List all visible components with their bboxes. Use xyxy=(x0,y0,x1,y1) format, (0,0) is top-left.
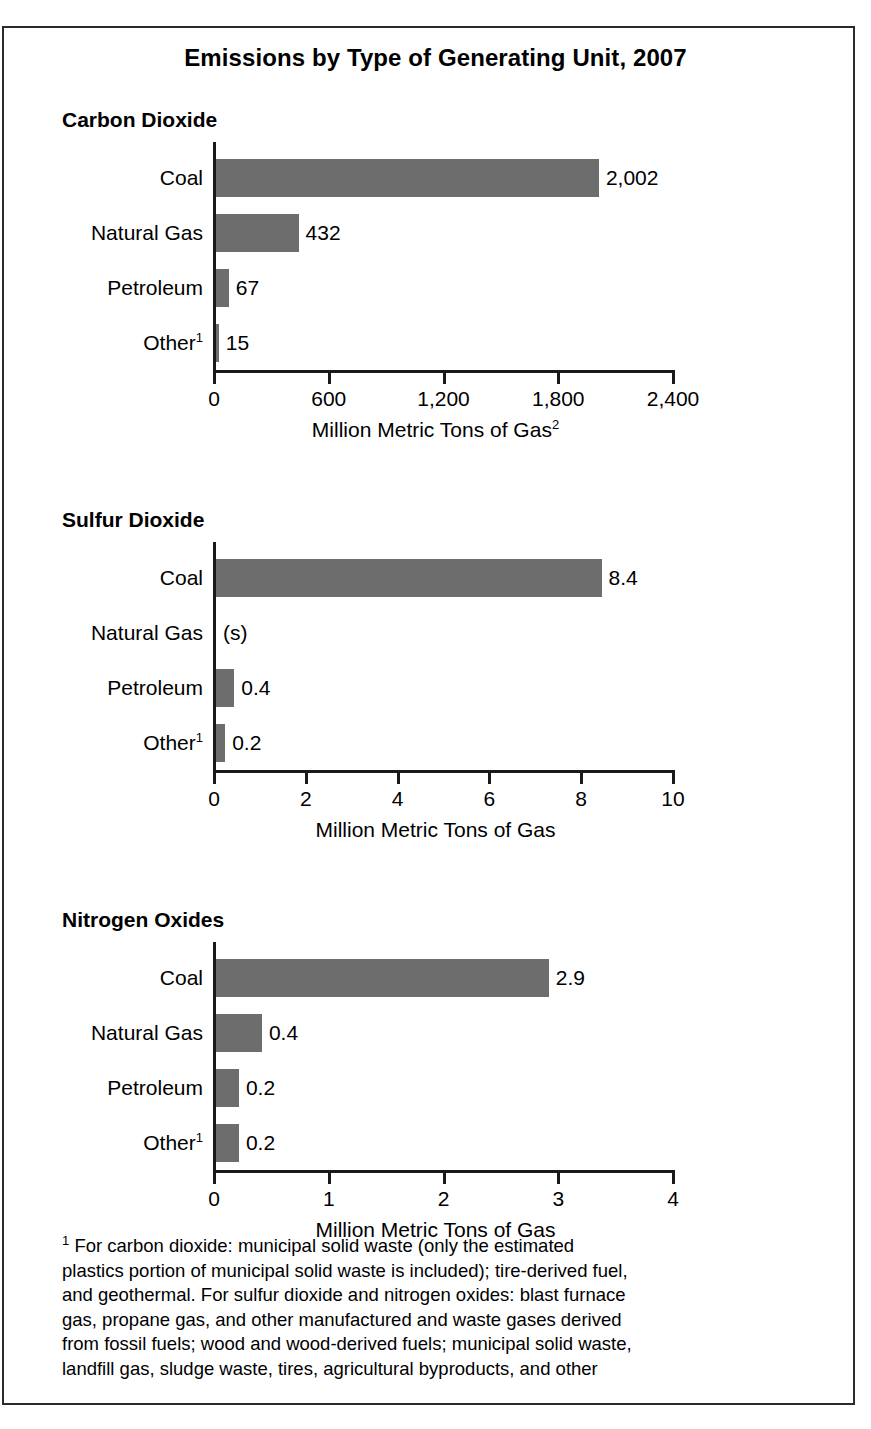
bar-value-2-1: 0.4 xyxy=(269,1021,298,1045)
category-label-0-1: Natural Gas xyxy=(91,221,203,245)
category-label-1-2: Petroleum xyxy=(107,676,203,700)
category-label-2-3: Other1 xyxy=(143,1131,203,1155)
category-label-footnote-0-3: 1 xyxy=(196,330,203,345)
x-tick-1-4 xyxy=(580,773,583,784)
x-tick-label-0-2: 1,200 xyxy=(417,387,470,411)
bar-2-1 xyxy=(216,1014,262,1052)
panel-title-0: Carbon Dioxide xyxy=(62,108,217,132)
x-tick-2-1 xyxy=(328,1173,331,1184)
x-tick-2-2 xyxy=(443,1173,446,1184)
bar-value-0-0: 2,002 xyxy=(606,166,659,190)
bar-2-3 xyxy=(216,1124,239,1162)
x-axis-title-footnote-0: 2 xyxy=(552,417,559,432)
x-tick-0-2 xyxy=(443,373,446,384)
footnote-marker: 1 xyxy=(62,1233,69,1248)
x-tick-label-2-1: 1 xyxy=(323,1187,335,1211)
category-label-2-2: Petroleum xyxy=(107,1076,203,1100)
bar-1-0 xyxy=(216,559,602,597)
x-tick-1-2 xyxy=(397,773,400,784)
bar-value-0-2: 67 xyxy=(236,276,259,300)
footnote-line-2: and geothermal. For sulfur dioxide and n… xyxy=(62,1283,762,1308)
x-tick-label-0-3: 1,800 xyxy=(532,387,585,411)
bar-value-2-2: 0.2 xyxy=(246,1076,275,1100)
bar-2-2 xyxy=(216,1069,239,1107)
bar-value-1-1: (s) xyxy=(223,621,248,645)
footnote-text-0: For carbon dioxide: municipal solid wast… xyxy=(74,1235,574,1256)
bar-value-0-1: 432 xyxy=(306,221,341,245)
x-tick-label-1-5: 10 xyxy=(661,787,684,811)
category-label-0-2: Petroleum xyxy=(107,276,203,300)
category-label-footnote-2-3: 1 xyxy=(196,1130,203,1145)
category-label-0-0: Coal xyxy=(160,166,203,190)
bar-2-0 xyxy=(216,959,549,997)
category-label-1-0: Coal xyxy=(160,566,203,590)
bar-0-1 xyxy=(216,214,299,252)
x-tick-label-2-3: 3 xyxy=(552,1187,564,1211)
category-label-2-1: Natural Gas xyxy=(91,1021,203,1045)
x-tick-label-1-1: 2 xyxy=(300,787,312,811)
footnote-line-0: 1 For carbon dioxide: municipal solid wa… xyxy=(62,1234,762,1259)
bar-1-3 xyxy=(216,724,225,762)
x-tick-label-1-3: 6 xyxy=(484,787,496,811)
x-tick-1-5 xyxy=(672,773,675,784)
bar-value-1-3: 0.2 xyxy=(232,731,261,755)
bar-0-3 xyxy=(216,324,219,362)
footnote-line-4: from fossil fuels; wood and wood-derived… xyxy=(62,1332,762,1357)
category-label-0-3: Other1 xyxy=(143,331,203,355)
x-tick-1-1 xyxy=(305,773,308,784)
x-tick-label-2-2: 2 xyxy=(438,1187,450,1211)
category-label-2-0: Coal xyxy=(160,966,203,990)
figure-footnote: 1 For carbon dioxide: municipal solid wa… xyxy=(62,1234,762,1381)
footnote-line-1: plastics portion of municipal solid wast… xyxy=(62,1259,762,1284)
category-label-1-3: Other1 xyxy=(143,731,203,755)
bar-value-2-0: 2.9 xyxy=(556,966,585,990)
x-axis-title-1: Million Metric Tons of Gas xyxy=(0,818,871,842)
x-tick-1-0 xyxy=(213,773,216,784)
panel-title-2: Nitrogen Oxides xyxy=(62,908,224,932)
bar-0-0 xyxy=(216,159,599,197)
figure-title: Emissions by Type of Generating Unit, 20… xyxy=(0,44,871,72)
bar-1-2 xyxy=(216,669,234,707)
x-tick-2-4 xyxy=(672,1173,675,1184)
x-tick-0-1 xyxy=(328,373,331,384)
bar-value-1-0: 8.4 xyxy=(609,566,638,590)
category-label-1-1: Natural Gas xyxy=(91,621,203,645)
x-tick-2-3 xyxy=(557,1173,560,1184)
footnote-line-3: gas, propane gas, and other manufactured… xyxy=(62,1308,762,1333)
x-tick-0-0 xyxy=(213,373,216,384)
bar-value-2-3: 0.2 xyxy=(246,1131,275,1155)
x-tick-0-4 xyxy=(672,373,675,384)
x-tick-label-0-0: 0 xyxy=(208,387,220,411)
footnote-line-5: landfill gas, sludge waste, tires, agric… xyxy=(62,1357,762,1382)
bar-0-2 xyxy=(216,269,229,307)
x-tick-label-1-2: 4 xyxy=(392,787,404,811)
x-tick-1-3 xyxy=(488,773,491,784)
panel-title-1: Sulfur Dioxide xyxy=(62,508,204,532)
x-tick-0-3 xyxy=(557,373,560,384)
bar-value-1-2: 0.4 xyxy=(241,676,270,700)
figure-page: Emissions by Type of Generating Unit, 20… xyxy=(0,0,871,1429)
x-tick-label-2-0: 0 xyxy=(208,1187,220,1211)
x-tick-label-1-0: 0 xyxy=(208,787,220,811)
x-tick-label-1-4: 8 xyxy=(575,787,587,811)
x-axis-title-0: Million Metric Tons of Gas2 xyxy=(0,418,871,442)
value-axis-line-1 xyxy=(213,770,675,773)
x-tick-label-2-4: 4 xyxy=(667,1187,679,1211)
bar-value-0-3: 15 xyxy=(226,331,249,355)
x-tick-2-0 xyxy=(213,1173,216,1184)
category-label-footnote-1-3: 1 xyxy=(196,730,203,745)
x-tick-label-0-1: 600 xyxy=(311,387,346,411)
x-tick-label-0-4: 2,400 xyxy=(647,387,700,411)
